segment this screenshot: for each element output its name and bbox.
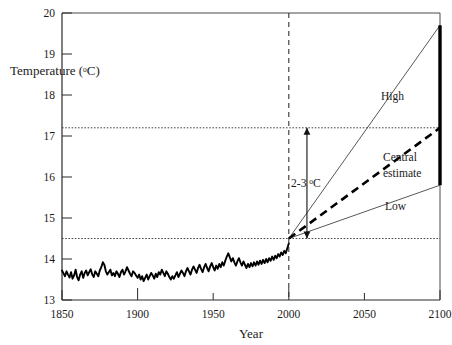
x-tick-label: 2100 bbox=[429, 308, 452, 320]
y-tick-label: 15 bbox=[44, 212, 56, 224]
x-tick-label: 2050 bbox=[353, 308, 376, 320]
x-tick-label: 1900 bbox=[126, 308, 149, 320]
warming-range-annotation: 2-3 oC bbox=[291, 128, 321, 239]
y-axis-title-unit: C) bbox=[87, 63, 100, 78]
y-axis-title-main: Temperature ( bbox=[10, 63, 83, 78]
y-tick-label: 19 bbox=[44, 48, 56, 60]
annotation-arrowhead-up-icon bbox=[304, 128, 311, 135]
y-tick-label: 17 bbox=[44, 130, 56, 142]
x-tick-label: 1850 bbox=[51, 308, 74, 320]
y-tick-label: 20 bbox=[44, 7, 56, 19]
y-tick-label: 16 bbox=[44, 171, 56, 183]
series-label-central-line1: Central bbox=[383, 151, 417, 163]
x-tick-label: 1950 bbox=[202, 308, 225, 320]
y-tick-label: 14 bbox=[44, 253, 56, 265]
y-axis-ticks bbox=[62, 13, 72, 300]
series-observed bbox=[62, 243, 289, 281]
series-label-central-line2: estimate bbox=[383, 167, 421, 179]
x-axis-title: Year bbox=[239, 326, 264, 341]
horizontal-reference-lines bbox=[62, 128, 440, 239]
chart-canvas: 20 19 18 17 16 15 14 13 Temperature (oC)… bbox=[0, 0, 452, 345]
y-tick-labels: 20 19 18 17 16 15 14 13 bbox=[44, 7, 56, 306]
x-tick-label: 2000 bbox=[277, 308, 300, 320]
annotation-arrowhead-down-icon bbox=[304, 232, 311, 239]
x-tick-labels: 1850 1900 1950 2000 2050 2100 bbox=[51, 308, 452, 320]
annotation-label-main: 2-3 bbox=[291, 177, 309, 189]
x-axis-ticks bbox=[62, 288, 440, 300]
series-label-high: High bbox=[381, 90, 404, 103]
y-tick-label: 18 bbox=[44, 89, 56, 101]
series-label-low: Low bbox=[385, 200, 407, 212]
annotation-label: 2-3 oC bbox=[291, 177, 321, 190]
annotation-label-unit: C bbox=[313, 177, 321, 189]
y-axis-title: Temperature (oC) bbox=[10, 63, 100, 78]
climate-projection-chart: 20 19 18 17 16 15 14 13 Temperature (oC)… bbox=[0, 0, 452, 345]
series-low bbox=[289, 185, 440, 238]
series-high bbox=[289, 25, 440, 238]
y-tick-label: 13 bbox=[44, 294, 56, 306]
